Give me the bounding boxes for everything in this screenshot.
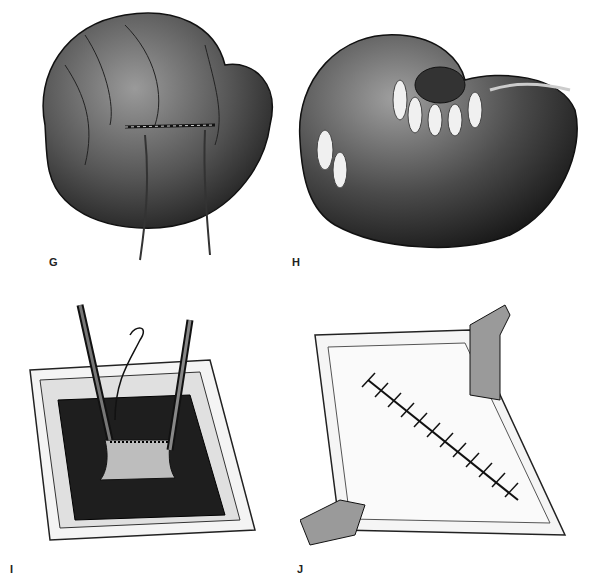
closed-fascia-illustration (300, 295, 590, 550)
panel-label-i: I (10, 563, 13, 575)
panel-g (25, 5, 285, 270)
panel-label-j: J (297, 563, 303, 575)
panel-i (10, 300, 265, 545)
panel-label-h: H (292, 256, 300, 268)
stomach-sutured-illustration (25, 5, 285, 270)
wound-closure-illustration (10, 300, 265, 545)
panel-label-g: G (49, 256, 58, 268)
stomach-omental-illustration (290, 20, 585, 260)
panel-h (290, 20, 585, 260)
panel-j (300, 295, 590, 550)
